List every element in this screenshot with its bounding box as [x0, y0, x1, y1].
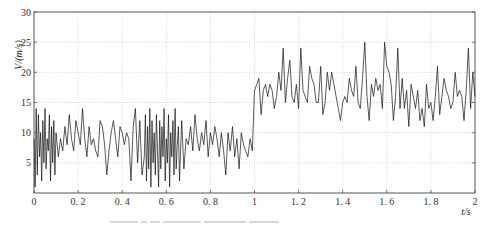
y-axis-ticks: 51015202530 [21, 7, 475, 169]
x-tick-label: 1. 2 [291, 196, 306, 207]
y-axis-label: V/(m/s) [13, 40, 25, 70]
x-tick-label: 2 [473, 196, 478, 207]
y-tick-label: 15 [21, 97, 31, 108]
x-tick-label: 1. 8 [423, 196, 438, 207]
caption-fragment [249, 221, 279, 223]
caption-fragment [110, 221, 138, 223]
x-tick-label: 1. 6 [379, 196, 394, 207]
line-chart: 00. 20. 40. 60. 811. 21. 41. 61. 82 5101… [0, 0, 484, 227]
x-tick-label: 0. 2 [71, 196, 86, 207]
y-tick-label: 10 [21, 127, 31, 138]
x-tick-label: 0. 8 [203, 196, 218, 207]
caption-fragment [141, 221, 147, 223]
x-tick-label: 0. 4 [115, 196, 130, 207]
x-tick-label: 1. 4 [335, 196, 350, 207]
grid-lines [34, 12, 475, 193]
x-tick-label: 1 [252, 196, 257, 207]
caption-fragment [163, 221, 201, 223]
caption-fragment [204, 221, 246, 223]
x-tick-label: 0. 6 [159, 196, 174, 207]
y-tick-label: 30 [21, 7, 31, 18]
y-tick-label: 5 [26, 157, 31, 168]
caption-fragment [150, 221, 160, 223]
figure-caption-cropped [110, 221, 360, 227]
x-tick-label: 0 [32, 196, 37, 207]
x-axis-label: t/s [461, 206, 471, 217]
